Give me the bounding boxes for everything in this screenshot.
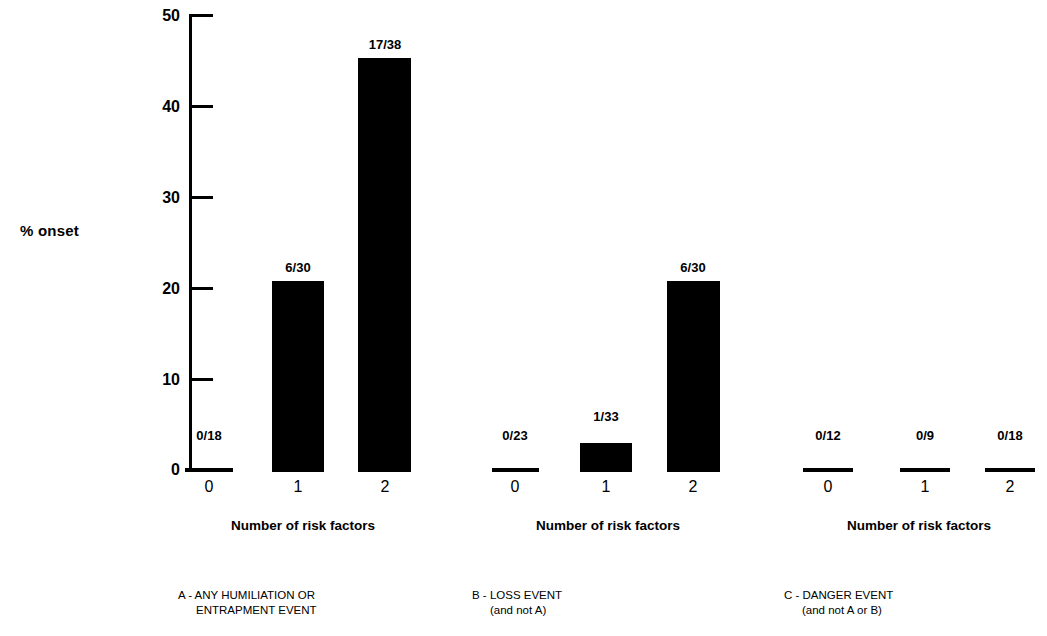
cat-label-panel-b-cat-1: 1 [576, 478, 636, 496]
cat-label-panel-c-cat-2: 2 [980, 478, 1040, 496]
y-axis-tick-30 [192, 196, 213, 199]
cat-label-panel-c-cat-1: 1 [895, 478, 955, 496]
y-axis-label: % onset [20, 222, 79, 239]
y-tick-label-10: 10 [120, 371, 180, 389]
panel-caption-c-line2: (and not A or B) [784, 603, 1034, 618]
bar-panel-c-cat-1[interactable] [900, 468, 950, 472]
cat-label-panel-b-cat-2: 2 [663, 478, 723, 496]
panel-caption-a-line1: A - ANY HUMILIATION OR [178, 589, 315, 601]
y-tick-label-30: 30 [120, 189, 180, 207]
y-tick-label-20: 20 [120, 280, 180, 298]
panel-caption-b: B - LOSS EVENT (and not A) [472, 573, 722, 633]
bar-value-panel-b-cat-2: 6/30 [663, 260, 723, 275]
y-axis-tick-50 [192, 14, 213, 17]
panel-caption-a-line2: ENTRAPMENT EVENT [178, 603, 428, 618]
y-axis-tick-10 [192, 378, 213, 381]
panel-caption-b-line2: (and not A) [472, 603, 722, 618]
cat-label-panel-a-cat-2: 2 [355, 478, 415, 496]
axis-title-panel-b: Number of risk factors [503, 518, 713, 533]
bar-panel-b-cat-2[interactable] [667, 281, 720, 472]
bar-panel-c-cat-2[interactable] [985, 468, 1035, 472]
panel-caption-b-line1: B - LOSS EVENT [472, 589, 562, 601]
bar-panel-a-cat-0[interactable] [185, 468, 233, 472]
bar-value-panel-a-cat-1: 6/30 [268, 260, 328, 275]
panel-caption-c-line1: C - DANGER EVENT [784, 589, 893, 601]
bar-panel-c-cat-0[interactable] [803, 468, 853, 472]
y-axis-tick-20 [192, 287, 213, 290]
bar-value-panel-b-cat-0: 0/23 [485, 428, 545, 443]
bar-value-panel-c-cat-2: 0/18 [980, 428, 1040, 443]
cat-label-panel-c-cat-0: 0 [798, 478, 858, 496]
bar-panel-b-cat-1[interactable] [580, 443, 632, 472]
bar-chart-figure: % onset 50 40 30 20 10 0 0/18 0 6/30 1 1… [0, 0, 1047, 636]
axis-title-panel-c: Number of risk factors [814, 518, 1024, 533]
panel-caption-a: A - ANY HUMILIATION OR ENTRAPMENT EVENT [178, 573, 428, 633]
bar-panel-a-cat-1[interactable] [272, 281, 324, 472]
panel-caption-c: C - DANGER EVENT (and not A or B) [784, 573, 1034, 633]
cat-label-panel-b-cat-0: 0 [485, 478, 545, 496]
axis-title-panel-a: Number of risk factors [198, 518, 408, 533]
bar-panel-b-cat-0[interactable] [492, 468, 539, 472]
y-axis-tick-40 [192, 105, 213, 108]
bar-panel-a-cat-2[interactable] [358, 58, 411, 472]
y-axis-line [189, 14, 192, 472]
cat-label-panel-a-cat-1: 1 [268, 478, 328, 496]
bar-value-panel-a-cat-0: 0/18 [179, 428, 239, 443]
y-tick-label-40: 40 [120, 98, 180, 116]
bar-value-panel-a-cat-2: 17/38 [355, 37, 415, 52]
bar-value-panel-b-cat-1: 1/33 [576, 409, 636, 424]
y-tick-label-50: 50 [120, 7, 180, 25]
bar-value-panel-c-cat-0: 0/12 [798, 428, 858, 443]
bar-value-panel-c-cat-1: 0/9 [895, 428, 955, 443]
y-tick-label-0: 0 [120, 461, 180, 479]
cat-label-panel-a-cat-0: 0 [179, 478, 239, 496]
